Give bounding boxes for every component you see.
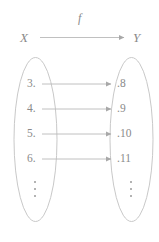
domain-element-5: 5. <box>27 128 36 140</box>
codomain-set-label: Y <box>133 31 140 44</box>
domain-continuation-ellipsis <box>34 181 36 197</box>
domain-element-4: 4. <box>27 103 36 115</box>
codomain-element-8: .8 <box>117 78 126 90</box>
codomain-element-9: .9 <box>117 103 126 115</box>
codomain-element-11: .11 <box>117 153 131 165</box>
codomain-continuation-ellipsis <box>130 181 132 197</box>
domain-set-label: X <box>20 31 28 44</box>
function-mapping-diagram: Y --> f X Y 3. 4. 5. 6. .8 .9 .10 .11 <box>0 0 159 242</box>
domain-element-6: 6. <box>27 153 36 165</box>
domain-element-3: 3. <box>27 78 36 90</box>
function-label: f <box>78 12 81 24</box>
codomain-element-10: .10 <box>117 128 131 140</box>
